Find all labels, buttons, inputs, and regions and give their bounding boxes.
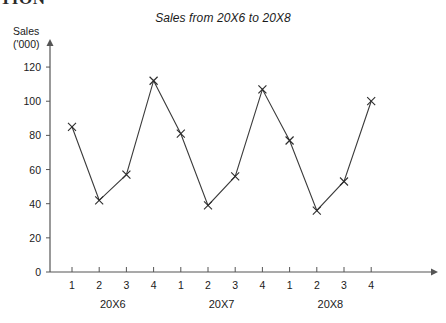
y-tick-label: 40: [29, 198, 41, 210]
data-point-marker: [150, 77, 158, 85]
y-tick-label: 60: [29, 164, 41, 176]
y-tick-label: 20: [29, 232, 41, 244]
y-tick-label: 80: [29, 129, 41, 141]
data-point-marker: [313, 207, 321, 215]
y-tick-label: 120: [23, 61, 41, 73]
data-point-marker: [367, 97, 375, 105]
y-tick-label: 0: [35, 266, 41, 278]
x-tick-label: 2: [314, 279, 320, 291]
y-axis-ticks: 020406080100120: [23, 61, 50, 278]
x-tick-label: 3: [341, 279, 347, 291]
x-axis-group-labels: 20X620X720X8: [100, 298, 343, 310]
line-chart-plot: 020406080100120 123412341234 20X620X720X…: [0, 0, 446, 323]
data-point-marker: [231, 172, 239, 180]
data-point-marker: [68, 123, 76, 131]
x-tick-label: 3: [232, 279, 238, 291]
x-tick-label: 3: [123, 279, 129, 291]
x-tick-label: 1: [178, 279, 184, 291]
series-markers: [68, 77, 375, 215]
x-axis-group-label: 20X7: [209, 298, 235, 310]
y-tick-label: 100: [23, 95, 41, 107]
series-polyline: [72, 81, 371, 211]
data-series: [68, 77, 375, 215]
data-point-marker: [177, 130, 185, 138]
data-point-marker: [340, 177, 348, 185]
data-point-marker: [122, 171, 130, 179]
x-axis: 123412341234 20X620X720X8: [50, 267, 432, 310]
x-tick-label: 2: [96, 279, 102, 291]
data-point-marker: [95, 196, 103, 204]
data-point-marker: [204, 201, 212, 209]
data-point-marker: [258, 85, 266, 93]
x-axis-group-label: 20X6: [100, 298, 126, 310]
chart-page: TION Sales from 20X6 to 20X8 Sales ('000…: [0, 0, 446, 323]
y-axis: 020406080100120: [23, 45, 50, 278]
x-tick-label: 4: [151, 279, 157, 291]
x-tick-label: 1: [69, 279, 75, 291]
x-axis-group-label: 20X8: [318, 298, 344, 310]
data-point-marker: [286, 137, 294, 145]
x-axis-ticks: 123412341234: [69, 267, 374, 291]
x-tick-label: 4: [368, 279, 374, 291]
x-tick-label: 1: [287, 279, 293, 291]
x-tick-label: 2: [205, 279, 211, 291]
x-tick-label: 4: [259, 279, 265, 291]
